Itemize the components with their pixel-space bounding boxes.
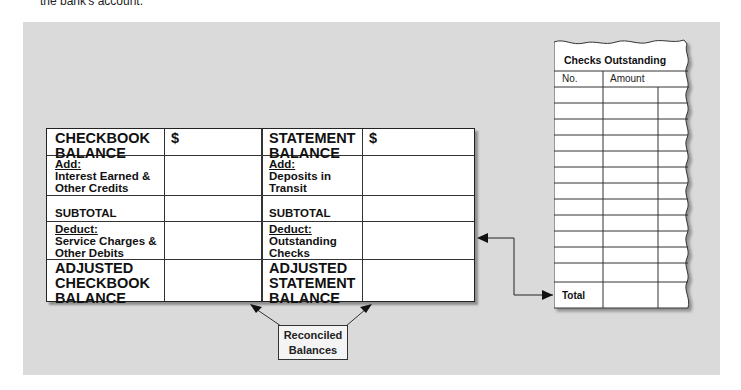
statement-balance-label: STATEMENT BALANCE [269,131,359,161]
statement-add-items: Deposits in Transit [269,170,349,194]
adjusted-statement-balance-label: ADJUSTED STATEMENT BALANCE [269,261,361,307]
checks-outstanding-sheet: Checks Outstanding No. Amount Total [554,38,690,308]
checks-outstanding-title: Checks Outstanding [564,54,666,66]
reconciled-line2: Balances [279,343,347,358]
statement-deduct-heading: Deduct: [269,223,312,235]
statement-dollar-sign: $ [369,131,377,146]
adjusted-checkbook-balance-label: ADJUSTED CHECKBOOK BALANCE [55,261,160,307]
checkbook-subtotal-label: SUBTOTAL [55,207,117,219]
checkbook-deduct-heading: Deduct: [55,223,98,235]
column-header-amount: Amount [610,73,644,84]
total-label: Total [562,290,585,301]
caption-fragment: the bank's account. [40,0,143,8]
reconciliation-form: CHECKBOOK BALANCE $ Add: Interest Earned… [46,128,475,302]
row-divider [47,195,474,196]
statement-add-heading: Add: [269,158,295,170]
checkbook-deduct-items: Service Charges & Other Debits [55,235,161,259]
checkbook-dollar-sign: $ [171,131,179,146]
reconciled-line1: Reconciled [279,328,347,343]
statement-subtotal-label: SUBTOTAL [269,207,331,219]
checkbook-balance-label: CHECKBOOK BALANCE [55,131,160,161]
checkbook-add-heading: Add: [55,158,81,170]
checkbook-add-items: Interest Earned & Other Credits [55,170,161,194]
row-divider [47,221,474,222]
column-header-number: No. [562,73,578,84]
reconciled-balances-box: Reconciled Balances [278,325,348,360]
statement-deduct-items: Outstanding Checks [269,235,354,259]
